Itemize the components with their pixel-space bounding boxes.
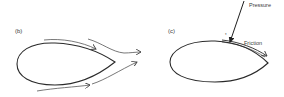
panel-b-flow-upper-outer (88, 39, 141, 53)
panel-b-label: (b) (15, 28, 22, 34)
panel-c-label: (c) (168, 28, 175, 34)
tau-label: τ (225, 31, 227, 36)
panel-c: (c) Pressure Friction τ (168, 1, 271, 82)
panel-b-flow-lower-inner (37, 85, 90, 91)
streamlined-body-diagram: (b) (c) Pressure Friction τ (0, 0, 284, 97)
pressure-label: Pressure (249, 2, 271, 8)
pressure-arrow (230, 1, 244, 42)
panel-c-body-outline (170, 41, 268, 82)
panel-b-body-outline (17, 43, 115, 85)
panel-b: (b) (15, 28, 141, 91)
friction-label: Friction (244, 40, 262, 46)
